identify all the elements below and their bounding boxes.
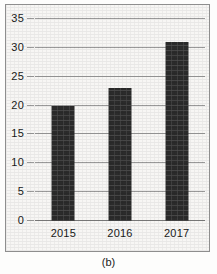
plot-area: 05101520253035 201520162017 <box>35 19 205 221</box>
figure-container: 05101520253035 201520162017 (b) <box>0 0 217 274</box>
bar-2016[interactable] <box>108 88 131 221</box>
y-tick-mark-5 <box>27 191 34 192</box>
bar-slot-2016: 2016 <box>92 19 149 221</box>
x-axis-label-2017: 2017 <box>164 227 189 239</box>
y-axis-label-35: 35 <box>11 12 24 24</box>
y-tick-mark-10 <box>27 162 34 163</box>
y-tick-mark-25 <box>27 76 34 77</box>
y-axis-label-30: 30 <box>11 41 24 53</box>
y-tick-mark-35 <box>27 18 34 19</box>
figure-caption: (b) <box>0 256 217 268</box>
y-axis-label-20: 20 <box>11 99 24 111</box>
y-tick-mark-0 <box>27 220 34 221</box>
bar-2017[interactable] <box>165 42 188 221</box>
y-tick-mark-15 <box>27 133 34 134</box>
y-tick-mark-20 <box>27 105 34 106</box>
y-axis-label-10: 10 <box>11 156 24 168</box>
bar-slot-2017: 2017 <box>148 19 205 221</box>
y-axis-label-5: 5 <box>18 185 24 197</box>
bar-2015[interactable] <box>52 106 75 221</box>
y-axis-label-0: 0 <box>18 214 24 226</box>
x-axis-label-2016: 2016 <box>107 227 132 239</box>
x-axis-label-2015: 2015 <box>51 227 76 239</box>
chart-frame: 05101520253035 201520162017 <box>5 4 210 252</box>
y-tick-mark-30 <box>27 47 34 48</box>
y-axis-label-25: 25 <box>11 70 24 82</box>
y-axis-label-15: 15 <box>11 127 24 139</box>
bar-slot-2015: 2015 <box>35 19 92 221</box>
